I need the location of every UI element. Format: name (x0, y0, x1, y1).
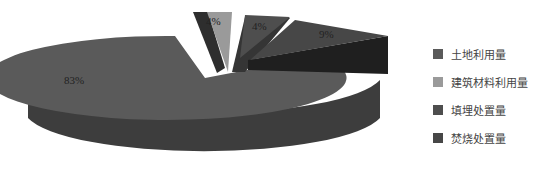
legend-item-building-material: 建筑材料利用量 (433, 68, 528, 96)
label-land-use: 83% (64, 74, 84, 86)
legend-label: 填埋处置量 (451, 102, 506, 118)
legend: 土地利用量 建筑材料利用量 填埋处置量 焚烧处置量 (433, 40, 528, 152)
legend-swatch (433, 133, 443, 143)
legend-swatch (433, 49, 443, 59)
legend-item-land-use: 土地利用量 (433, 40, 528, 68)
legend-label: 土地利用量 (451, 46, 506, 62)
label-building-material: 4% (206, 15, 221, 27)
label-incineration: 9% (319, 28, 334, 40)
legend-label: 焚烧处置量 (451, 130, 506, 146)
legend-label: 建筑材料利用量 (451, 74, 528, 90)
legend-item-landfill: 填埋处置量 (433, 96, 528, 124)
legend-item-incineration: 焚烧处置量 (433, 124, 528, 152)
legend-swatch (433, 77, 443, 87)
label-landfill: 4% (252, 20, 267, 32)
legend-swatch (433, 105, 443, 115)
